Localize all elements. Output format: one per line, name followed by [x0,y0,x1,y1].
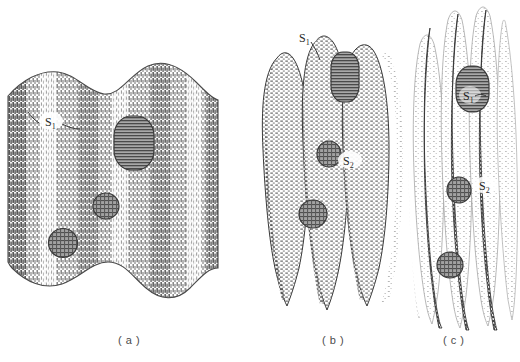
panel-c-graphic: S1 S2 [408,0,520,330]
panel-b-graphic: S1 S2 [255,0,405,330]
caption-panel-c: ( c ) [443,334,464,346]
label-b-s2-sub: 2 [350,161,354,170]
lamella-c-3 [469,7,500,326]
panel-b: S1 S2 [255,0,405,330]
inclusion-small-c [437,252,463,278]
label-b-s2-text: S [343,154,350,168]
fold-b-1 [262,53,309,306]
caption-panel-b: ( b ) [322,334,344,346]
figure-root: S1 [0,0,520,362]
inclusion-mid-a [93,193,119,219]
lamella-c-4 [497,20,517,320]
label-c-s2-text: S [479,179,486,193]
caption-row: ( a ) ( b ) ( c ) [0,326,520,362]
inclusion-mid-c [447,177,471,203]
label-b-s1-sub: 1 [306,38,310,47]
inclusion-large-b [331,52,359,102]
lamella-c-1 [413,35,444,324]
inclusion-mid-b [317,141,341,167]
inclusion-large-a [114,116,154,170]
inclusion-small-b [299,200,327,228]
lamella-c-2 [441,11,472,328]
inclusion-small-a [49,229,78,258]
label-b-s1-text: S [299,31,306,45]
caption-panel-a: ( a ) [118,334,140,346]
panel-c-lamellae [408,7,517,330]
panel-c: S1 S2 [408,0,520,330]
panel-a-graphic: S1 [0,0,230,330]
label-c-s2-sub: 2 [486,186,490,195]
panel-a: S1 [0,0,230,330]
label-c-s1-sub: 1 [470,96,474,105]
label-c-s1-text: S [463,89,470,103]
label-s1-text: S [45,115,52,129]
panel-a-sheet [0,0,230,330]
label-s1-sub: 1 [52,122,56,131]
